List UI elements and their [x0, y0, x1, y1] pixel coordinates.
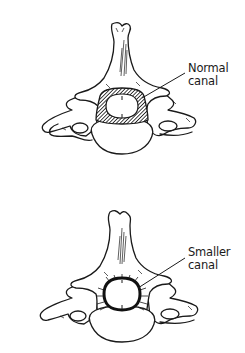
label-smaller-canal: Smaller canal [188, 246, 230, 272]
vertebra-normal-illustration [0, 0, 245, 176]
panel-normal-canal: Normal canal [0, 0, 245, 176]
label-smaller-line2: canal [188, 259, 230, 272]
panel-smaller-canal: Smaller canal [0, 176, 245, 353]
label-normal-line2: canal [188, 75, 228, 88]
label-normal-canal: Normal canal [188, 62, 228, 88]
